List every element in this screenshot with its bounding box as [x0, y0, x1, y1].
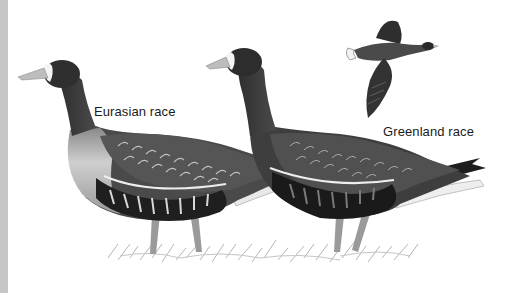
eurasian-race-label: Eurasian race [94, 104, 176, 119]
greenland-goose [206, 48, 486, 252]
geese-illustration [0, 0, 520, 293]
flying-goose [346, 21, 440, 118]
greenland-race-label: Greenland race [383, 124, 474, 139]
illustration-canvas: Eurasian race Greenland race [0, 0, 520, 293]
